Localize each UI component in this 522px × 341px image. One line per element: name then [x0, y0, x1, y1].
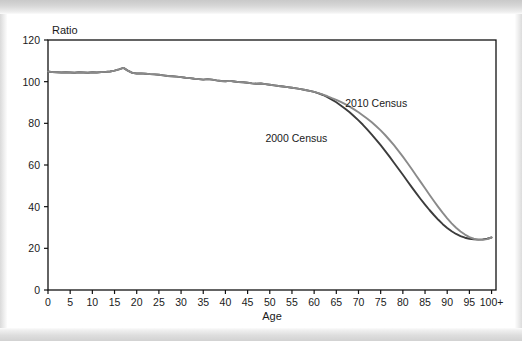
x-axis-tick-label: 25 [153, 296, 165, 308]
series-label: 2000 Census [265, 132, 327, 144]
x-axis-tick-labels: 0510152025303540455055606570758085909510… [45, 290, 503, 308]
chart-svg: 020406080100120 051015202530354045505560… [0, 0, 522, 341]
y-axis-tick-label: 120 [22, 34, 40, 46]
x-axis-tick-label: 80 [397, 296, 409, 308]
y-axis-tick-label: 40 [28, 201, 40, 213]
x-axis-tick-label: 10 [87, 296, 99, 308]
plot-background [48, 40, 496, 290]
series-label: 2010 Census [345, 97, 407, 109]
x-axis-tick-label: 95 [464, 296, 476, 308]
x-axis-tick-label: 35 [197, 296, 209, 308]
sex-ratio-by-age-chart: 020406080100120 051015202530354045505560… [0, 0, 522, 341]
x-axis-tick-label: 85 [419, 296, 431, 308]
x-axis-tick-label: 70 [353, 296, 365, 308]
x-axis-tick-label: 45 [242, 296, 254, 308]
y-axis-title: Ratio [52, 24, 78, 36]
y-axis-tick-label: 20 [28, 242, 40, 254]
x-axis-tick-label: 90 [441, 296, 453, 308]
y-axis-tick-labels: 020406080100120 [22, 34, 48, 296]
x-axis-tick-label: 100+ [480, 296, 504, 308]
x-axis-tick-label: 15 [109, 296, 121, 308]
x-axis-tick-label: 55 [286, 296, 298, 308]
y-axis-tick-label: 100 [22, 76, 40, 88]
y-axis-tick-label: 0 [34, 284, 40, 296]
x-axis-tick-label: 65 [330, 296, 342, 308]
y-axis-tick-label: 60 [28, 159, 40, 171]
x-axis-tick-label: 20 [131, 296, 143, 308]
x-axis-tick-label: 75 [375, 296, 387, 308]
x-axis-tick-label: 0 [45, 296, 51, 308]
x-axis-tick-label: 40 [220, 296, 232, 308]
x-axis-tick-label: 30 [175, 296, 187, 308]
x-axis-tick-label: 60 [308, 296, 320, 308]
x-axis-title: Age [262, 310, 282, 322]
y-axis-tick-label: 80 [28, 117, 40, 129]
x-axis-tick-label: 5 [67, 296, 73, 308]
x-axis-tick-label: 50 [264, 296, 276, 308]
